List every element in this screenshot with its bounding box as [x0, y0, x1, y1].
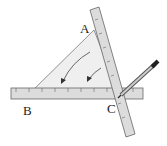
diagram-canvas: A B C	[0, 0, 167, 146]
vertex-label-c: C	[107, 102, 116, 115]
vertex-label-a: A	[80, 22, 89, 35]
vertex-label-b: B	[23, 104, 32, 117]
